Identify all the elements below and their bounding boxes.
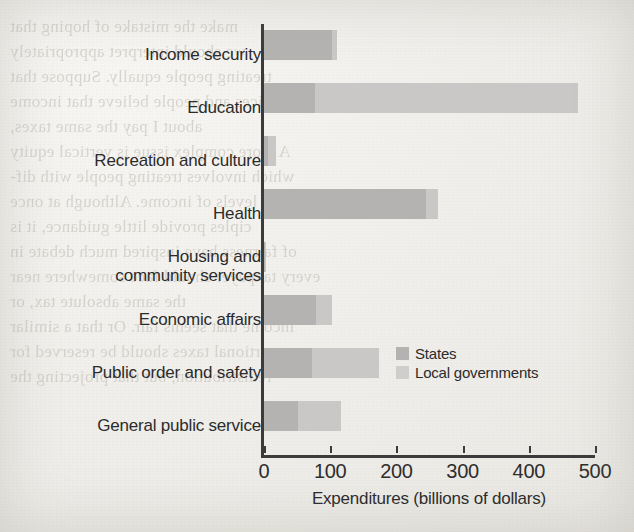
x-tick-label-0: 0 xyxy=(259,460,270,483)
bar-segment-states xyxy=(264,189,426,219)
bar-recreation-and-culture xyxy=(264,136,276,166)
category-label-education: Education xyxy=(11,98,261,117)
bar-segment-states xyxy=(264,295,316,325)
bar-segment-local-governments xyxy=(315,83,578,113)
bar-segment-local-governments xyxy=(298,401,341,431)
legend-entry-local-governments: Local governments xyxy=(396,363,538,382)
category-label-economic-affairs: Economic affairs xyxy=(11,310,261,329)
x-tick-label-500: 500 xyxy=(579,460,611,483)
x-axis-line xyxy=(261,455,595,458)
x-tick-100 xyxy=(330,446,332,453)
bar-income-security xyxy=(264,30,337,60)
bar-segment-states xyxy=(264,30,332,60)
bar-public-order-and-safety xyxy=(264,348,379,378)
x-axis-title: Expenditures (billions of dollars) xyxy=(262,489,596,509)
legend-swatch-local-governments-icon xyxy=(396,366,409,379)
x-tick-0 xyxy=(264,446,266,453)
x-tick-label-100: 100 xyxy=(314,460,346,483)
legend-swatch-states-icon xyxy=(396,347,409,360)
horizontal-stacked-bar-chart: Income security Education Recreation and… xyxy=(0,0,634,532)
legend-entry-states: States xyxy=(396,344,538,363)
bar-segment-local-governments xyxy=(265,242,266,272)
bar-education xyxy=(264,83,578,113)
category-label-recreation-and-culture: Recreation and culture xyxy=(11,151,261,170)
y-axis-line xyxy=(261,24,264,458)
bar-segment-local-governments xyxy=(426,189,438,219)
legend-label-states: States xyxy=(415,345,456,362)
category-label-line1: Health xyxy=(213,204,261,223)
category-label-general-public-service: General public service xyxy=(11,416,261,435)
category-label-line1: General public service xyxy=(97,416,261,435)
chart-legend: States Local governments xyxy=(396,344,538,382)
category-label-line1: Economic affairs xyxy=(139,310,261,329)
bar-segment-local-governments xyxy=(312,348,380,378)
x-tick-500 xyxy=(595,446,597,453)
bar-housing-and-community-services xyxy=(264,242,266,272)
x-tick-label-400: 400 xyxy=(513,460,545,483)
bar-segment-local-governments xyxy=(332,30,337,60)
bar-segment-states xyxy=(264,401,298,431)
x-tick-400 xyxy=(529,446,531,453)
bar-segment-local-governments xyxy=(268,136,276,166)
category-label-public-order-and-safety: Public order and safety xyxy=(11,363,261,382)
legend-label-local-governments: Local governments xyxy=(415,364,538,381)
category-label-line2: community services xyxy=(11,266,261,285)
category-label-health: Health xyxy=(11,204,261,223)
bar-segment-states xyxy=(264,83,315,113)
x-tick-label-200: 200 xyxy=(380,460,412,483)
category-label-line1: Recreation and culture xyxy=(94,151,261,170)
category-label-income-security: Income security xyxy=(11,45,261,64)
bar-segment-states xyxy=(264,348,312,378)
bar-economic-affairs xyxy=(264,295,332,325)
x-tick-label-300: 300 xyxy=(446,460,478,483)
bar-segment-local-governments xyxy=(316,295,332,325)
category-label-line1: Income security xyxy=(145,45,261,64)
category-label-line1: Education xyxy=(187,98,261,117)
x-tick-200 xyxy=(396,446,398,453)
bar-health xyxy=(264,189,438,219)
bar-general-public-service xyxy=(264,401,341,431)
category-label-line1: Housing and xyxy=(11,247,261,266)
category-label-line1: Public order and safety xyxy=(92,363,261,382)
x-tick-300 xyxy=(463,446,465,453)
category-label-housing-and-community-services: Housing and community services xyxy=(11,247,261,285)
